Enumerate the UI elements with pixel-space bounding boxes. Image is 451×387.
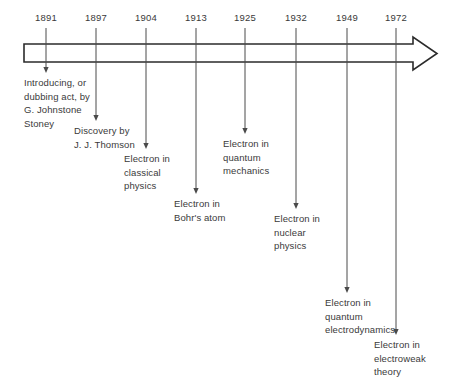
year-label-1891: 1891 [35, 12, 57, 23]
event-arrowhead-icon [193, 188, 198, 194]
leader-lines [43, 28, 398, 335]
event-arrowhead-icon [43, 67, 48, 73]
event-label-1904: Electron in classical physics [124, 152, 170, 193]
event-arrowhead-icon [93, 115, 98, 121]
year-label-1925: 1925 [234, 12, 256, 23]
year-label-1972: 1972 [385, 12, 407, 23]
time-axis-arrow [24, 37, 437, 70]
event-label-1932: Electron in nuclear physics [274, 212, 320, 253]
event-label-1913: Electron in Bohr's atom [174, 197, 226, 224]
year-label-1904: 1904 [135, 12, 157, 23]
event-label-1897: Discovery by J. J. Thomson [74, 124, 135, 151]
event-label-1972: Electron in electroweak theory [374, 338, 426, 379]
event-arrowhead-icon [242, 128, 247, 134]
event-arrowhead-icon [344, 287, 349, 293]
event-label-1891: Introducing, or dubbing act, by G. Johns… [24, 76, 90, 130]
year-label-1932: 1932 [285, 12, 307, 23]
year-label-1913: 1913 [185, 12, 207, 23]
year-label-1897: 1897 [85, 12, 107, 23]
event-arrowhead-icon [143, 143, 148, 149]
year-label-1949: 1949 [336, 12, 358, 23]
event-label-1949: Electron in quantum electrodynamics [325, 296, 395, 337]
event-label-1925: Electron in quantum mechanics [223, 137, 269, 178]
timeline-diagram: 18911897190419131925193219491972 Introdu… [0, 0, 451, 387]
event-arrowhead-icon [293, 203, 298, 209]
